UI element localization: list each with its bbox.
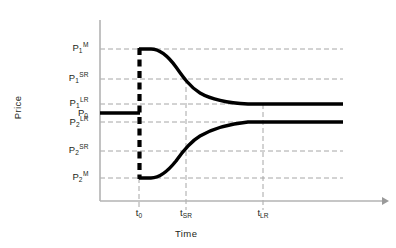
y-tick-label-P2SR: P2SR [22, 145, 88, 156]
x-axis-arrow-icon [382, 197, 389, 205]
y-axis-title: Price [12, 84, 23, 132]
y-tick-label-P2M: P2M [22, 172, 88, 183]
lower-price-curve [139, 122, 343, 178]
price-adjustment-chart: Price Time P1M P1SR P1LR P0 P2LR P2SR P2… [0, 0, 396, 248]
y-tick-label-P1SR: P1SR [22, 73, 88, 84]
x-tick-label-tLR: tLR [248, 208, 278, 219]
upper-price-curve [139, 49, 343, 104]
x-axis-title: Time [175, 228, 197, 239]
x-tick-label-tSR: tSR [171, 208, 201, 219]
y-tick-label-P1M: P1M [22, 43, 88, 54]
y-tick-label-P2LR: P2LR [22, 117, 88, 128]
x-tick-label-t0: t0 [124, 208, 154, 219]
vertical-gridlines [139, 79, 263, 210]
